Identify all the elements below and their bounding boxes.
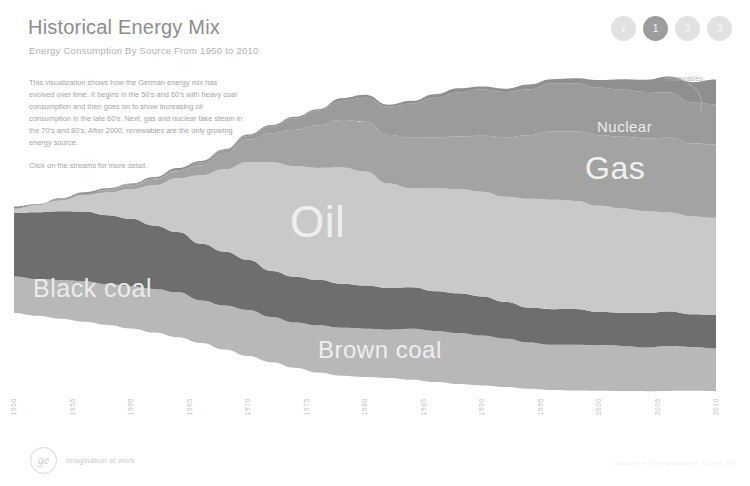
ge-tagline: Imagination at work bbox=[66, 456, 135, 465]
x-tick-1985: 1985 bbox=[420, 398, 427, 416]
x-tick-2000: 2000 bbox=[595, 398, 602, 416]
footer: ge Imagination at work Sources: AG Energ… bbox=[0, 444, 750, 486]
x-tick-1975: 1975 bbox=[303, 398, 310, 416]
page-title: Historical Energy Mix bbox=[28, 16, 220, 39]
nav-back-button[interactable]: ‹ bbox=[611, 16, 636, 41]
x-tick-1990: 1990 bbox=[478, 398, 485, 416]
x-tick-1970: 1970 bbox=[244, 398, 251, 416]
x-tick-1965: 1965 bbox=[186, 398, 193, 416]
x-tick-2005: 2005 bbox=[654, 398, 661, 416]
slide-navigation: ‹ 1 2 3 bbox=[611, 16, 732, 41]
stream-label-gas[interactable]: Gas bbox=[585, 150, 645, 187]
x-tick-1980: 1980 bbox=[361, 398, 368, 416]
page-subtitle: Energy Consumption By Source From 1950 t… bbox=[29, 45, 259, 56]
nav-dot-1[interactable]: 1 bbox=[643, 16, 668, 41]
x-axis: 1950195519601965197019751980198519901995… bbox=[0, 398, 750, 444]
stream-label-oil[interactable]: Oil bbox=[290, 197, 345, 247]
x-tick-1955: 1955 bbox=[69, 398, 76, 416]
stream-label-brown-coal[interactable]: Brown coal bbox=[318, 336, 442, 364]
renewables-leader-line bbox=[686, 82, 712, 116]
ge-logo-icon: ge bbox=[30, 447, 57, 474]
x-tick-1995: 1995 bbox=[537, 398, 544, 416]
visualization-page: Historical Energy Mix Energy Consumption… bbox=[0, 0, 750, 486]
nav-dot-2[interactable]: 2 bbox=[675, 16, 700, 41]
stream-label-renewables[interactable]: Renewables bbox=[665, 75, 703, 82]
stream-label-black-coal[interactable]: Black coal bbox=[33, 274, 152, 303]
x-tick-1950: 1950 bbox=[10, 398, 17, 416]
x-tick-2010: 2010 bbox=[712, 398, 719, 416]
sources-credit: Sources: AG Energiebilanzen, Kohlen, EPI bbox=[615, 460, 736, 466]
x-tick-1960: 1960 bbox=[127, 398, 134, 416]
nav-dot-3[interactable]: 3 bbox=[707, 16, 732, 41]
stream-label-nuclear[interactable]: Nuclear bbox=[597, 118, 652, 135]
